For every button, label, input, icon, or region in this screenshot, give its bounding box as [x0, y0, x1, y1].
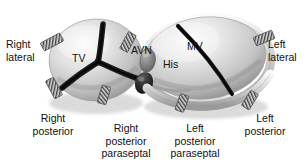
av-node-label: AVN: [131, 44, 152, 56]
label-left-posterior-line-1: Left: [232, 112, 298, 125]
label-right-posterior-paraseptal-line-3: paraseptal: [90, 147, 162, 160]
label-right-lateral: Right lateral: [6, 38, 35, 63]
label-left-posterior-paraseptal-line-2: posterior: [157, 135, 233, 148]
label-right-posterior-paraseptal-line-1: Right: [90, 122, 162, 135]
label-left-posterior-paraseptal-line-1: Left: [157, 122, 233, 135]
label-right-lateral-line-2: lateral: [6, 51, 35, 64]
his-bundle-label: His: [163, 58, 178, 70]
label-left-posterior-line-2: posterior: [232, 125, 298, 138]
label-right-lateral-line-1: Right: [6, 38, 35, 51]
label-left-posterior: Left posterior: [232, 112, 298, 137]
label-left-posterior-paraseptal-line-3: paraseptal: [157, 147, 233, 160]
label-left-posterior-paraseptal: Left posterior paraseptal: [157, 122, 233, 160]
label-right-posterior-paraseptal: Right posterior paraseptal: [90, 122, 162, 160]
figure-canvas: TV MV AVN His Right lateral Left lateral…: [0, 0, 304, 168]
label-right-posterior-line-2: posterior: [17, 125, 89, 138]
label-left-lateral: Left lateral: [268, 38, 297, 63]
label-right-posterior-line-1: Right: [17, 112, 89, 125]
mitral-valve-label: MV: [187, 40, 203, 52]
tricuspid-valve-label: TV: [72, 52, 85, 64]
label-left-lateral-line-1: Left: [268, 38, 297, 51]
label-left-lateral-line-2: lateral: [268, 51, 297, 64]
label-right-posterior-paraseptal-line-2: posterior: [90, 135, 162, 148]
label-right-posterior: Right posterior: [17, 112, 89, 137]
